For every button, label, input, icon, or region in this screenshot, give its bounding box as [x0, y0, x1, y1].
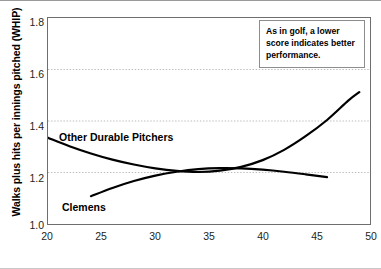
y-axis-title: Walks plus hits per innings pitched (WHI…: [10, 5, 22, 220]
y-tick-label: 1.6: [16, 68, 44, 80]
series-label-clemens: Clemens: [62, 201, 106, 213]
gridlines: [48, 70, 370, 173]
x-tick-label: 40: [248, 230, 278, 242]
chart-figure: Walks plus hits per innings pitched (WHI…: [0, 0, 381, 269]
x-tick-label: 25: [86, 230, 116, 242]
x-tick-label: 20: [32, 230, 62, 242]
x-tick-label: 50: [356, 230, 381, 242]
annotation-box: As in golf, a lower score indicates bett…: [259, 20, 365, 68]
y-tick-label: 1.4: [16, 120, 44, 132]
y-tick-label: 1.8: [16, 16, 44, 28]
series-label-other-durable-pitchers: Other Durable Pitchers: [59, 131, 173, 143]
y-tick-label: 1.2: [16, 172, 44, 184]
x-tick-label: 45: [302, 230, 332, 242]
x-tick-label: 30: [140, 230, 170, 242]
annotation-text: As in golf, a lower score indicates bett…: [266, 25, 359, 62]
x-tick-label: 35: [194, 230, 224, 242]
